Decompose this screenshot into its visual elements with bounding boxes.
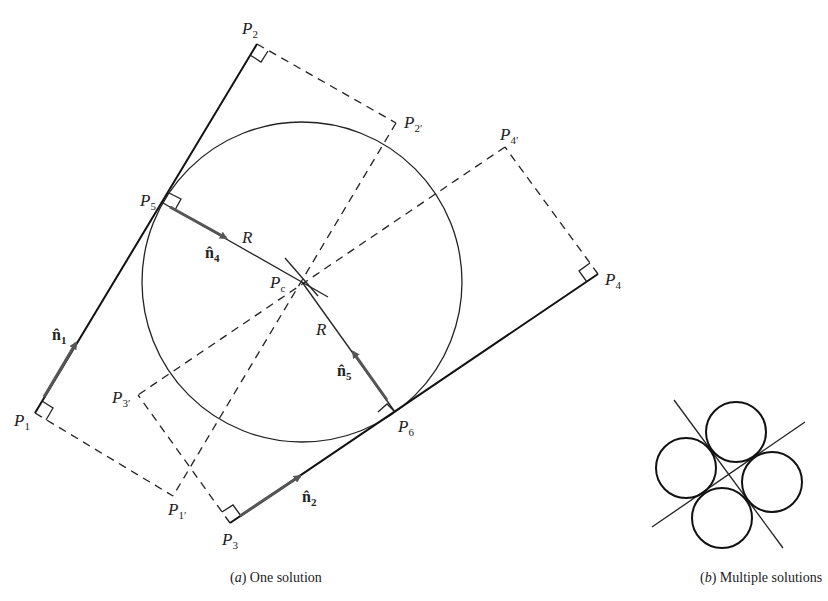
- label-n5: n̂5: [337, 362, 352, 382]
- circle-b-bottom: [692, 488, 752, 548]
- figure-b: (b) Multiple solutions: [652, 400, 822, 586]
- n1-arrow-icon: [44, 343, 76, 397]
- label-n4: n̂4: [205, 244, 220, 264]
- label-pc: Pc: [269, 273, 285, 294]
- label-p4: P4: [604, 270, 621, 291]
- dash-p3-p3p: [138, 395, 230, 523]
- diagram-canvas: P2 P2′ P4′ P4 P5 Pc P6 P3′ P1 P1′ P3 R R…: [0, 0, 828, 601]
- label-radius-upper: R: [241, 228, 253, 247]
- label-p3: P3: [221, 530, 238, 551]
- right-angle-p3: [222, 505, 241, 516]
- label-p5: P5: [139, 191, 156, 212]
- dash-p1-p1p: [35, 413, 173, 496]
- dash-p2p-p1p: [173, 123, 396, 496]
- label-p4p: P4′: [499, 125, 518, 146]
- circle-b-top: [706, 402, 766, 462]
- label-p6: P6: [397, 417, 414, 438]
- caption-a: (a) One solution: [230, 570, 322, 586]
- label-n2: n̂2: [302, 488, 317, 508]
- circle-b-left: [656, 438, 716, 498]
- circle-b-right: [742, 452, 802, 512]
- label-p2p: P2′: [403, 113, 422, 134]
- right-angle-p4: [579, 263, 590, 282]
- figure-a: P2 P2′ P4′ P4 P5 Pc P6 P3′ P1 P1′ P3 R R…: [13, 19, 621, 586]
- right-angle-p1: [42, 401, 53, 420]
- label-p1: P1: [13, 411, 30, 432]
- n4-arrow-icon: [170, 207, 226, 238]
- caption-b: (b) Multiple solutions: [700, 570, 822, 586]
- label-p2: P2: [241, 19, 258, 40]
- label-p3p: P3′: [111, 388, 130, 409]
- dash-p4p-p3p: [138, 147, 505, 395]
- dash-p2-p2p: [257, 44, 396, 123]
- label-p1p: P1′: [167, 500, 186, 521]
- dash-p4-p4p: [505, 147, 598, 274]
- n5-arrow-icon: [353, 352, 387, 400]
- n2-arrow-icon: [240, 476, 300, 516]
- label-n1: n̂1: [52, 326, 66, 346]
- label-radius-lower: R: [315, 320, 327, 339]
